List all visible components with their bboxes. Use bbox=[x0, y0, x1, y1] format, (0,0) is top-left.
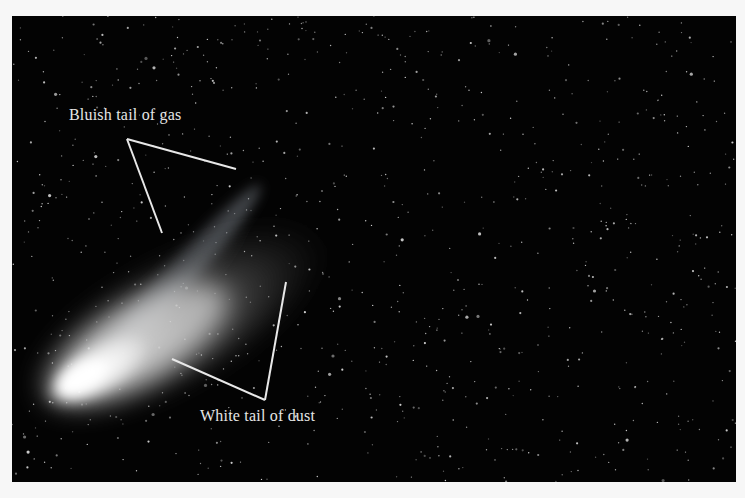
dust-tail-label: White tail of dust bbox=[200, 407, 315, 425]
star-field bbox=[12, 16, 736, 482]
gas-tail-label: Bluish tail of gas bbox=[69, 106, 181, 124]
comet-photo: Bluish tail of gas White tail of dust bbox=[12, 16, 736, 482]
comet-scene bbox=[12, 16, 736, 482]
